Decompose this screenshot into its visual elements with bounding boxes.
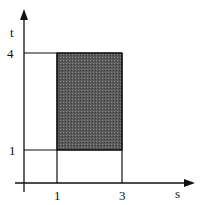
y-tick-1: 1: [9, 143, 16, 158]
y-axis-label: t: [10, 25, 14, 40]
shaded-region: [57, 53, 122, 150]
y-tick-4: 4: [7, 46, 14, 61]
x-axis-label: s: [175, 186, 180, 201]
x-axis-arrow-icon: [184, 179, 195, 187]
x-tick-1: 1: [54, 188, 61, 203]
region-diagram: t 4 1 1 3 s: [0, 0, 202, 205]
y-axis-arrow-icon: [20, 9, 28, 20]
x-tick-3: 3: [119, 188, 126, 203]
